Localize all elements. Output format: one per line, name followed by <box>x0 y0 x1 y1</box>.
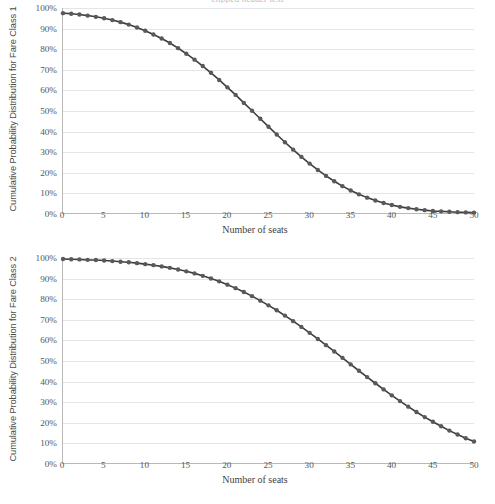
data-point-marker <box>209 276 213 280</box>
data-point-marker <box>283 313 287 317</box>
data-point-marker <box>332 179 336 183</box>
data-point-marker <box>168 266 172 270</box>
data-point-marker <box>414 410 418 414</box>
data-point-marker <box>373 381 377 385</box>
data-point-marker <box>94 258 98 262</box>
data-point-marker <box>102 258 106 262</box>
data-point-marker <box>250 294 254 298</box>
data-point-marker <box>184 269 188 273</box>
x-axis-title: Number of seats <box>30 474 480 485</box>
x-tick-label: 30 <box>305 460 314 470</box>
data-point-marker <box>168 41 172 45</box>
y-axis-title: Cumulative Probability Distribution for … <box>0 0 26 218</box>
x-tick-label: 5 <box>101 460 106 470</box>
x-tick-label: 0 <box>60 210 65 220</box>
x-tick-label: 45 <box>428 460 437 470</box>
data-point-marker <box>307 161 311 165</box>
data-point-marker <box>85 258 89 262</box>
series-line <box>63 259 474 441</box>
chart-fare-class-1: Cumulative Probability Distribution for … <box>0 0 495 250</box>
data-point-marker <box>209 71 213 75</box>
y-axis-title-label: Cumulative Probability Distribution for … <box>8 256 18 461</box>
y-tick-label: 100% <box>36 3 57 13</box>
series-line <box>63 13 474 212</box>
data-point-marker <box>266 303 270 307</box>
plot-wrapper: 0%10%20%30%40%50%60%70%80%90%100% <box>30 8 480 214</box>
data-series-fare-class-2 <box>63 258 474 463</box>
data-point-marker <box>275 132 279 136</box>
y-tick-label: 0% <box>45 209 57 219</box>
data-point-marker <box>390 203 394 207</box>
data-point-marker <box>406 404 410 408</box>
x-tick-label: 15 <box>181 460 190 470</box>
data-point-marker <box>201 64 205 68</box>
data-point-marker <box>316 337 320 341</box>
data-point-marker <box>398 399 402 403</box>
data-point-marker <box>324 174 328 178</box>
data-point-marker <box>225 85 229 89</box>
data-point-marker <box>258 117 262 121</box>
data-point-marker <box>307 331 311 335</box>
y-tick-label: 40% <box>40 127 57 137</box>
y-tick-label: 10% <box>40 188 57 198</box>
data-point-marker <box>233 286 237 290</box>
data-point-marker <box>176 267 180 271</box>
data-point-marker <box>151 263 155 267</box>
data-point-marker <box>94 15 98 19</box>
data-point-marker <box>275 308 279 312</box>
x-axis-tick-labels: 05101520253035404550 <box>62 458 474 474</box>
data-point-marker <box>110 18 114 22</box>
data-point-marker <box>250 109 254 113</box>
y-tick-label: 20% <box>40 418 57 428</box>
data-point-marker <box>233 93 237 97</box>
plot-wrapper: 0%10%20%30%40%50%60%70%80%90%100% <box>30 258 480 464</box>
y-tick-label: 60% <box>40 335 57 345</box>
data-point-marker <box>390 393 394 397</box>
data-point-marker <box>135 25 139 29</box>
data-point-marker <box>439 424 443 428</box>
data-point-marker <box>159 36 163 40</box>
x-tick-label: 10 <box>140 210 149 220</box>
x-tick-label: 15 <box>181 210 190 220</box>
y-tick-label: 30% <box>40 147 57 157</box>
x-axis-title: Number of seats <box>30 224 480 235</box>
data-point-marker <box>299 155 303 159</box>
x-tick-label: 40 <box>387 210 396 220</box>
data-point-marker <box>283 140 287 144</box>
data-point-marker <box>225 282 229 286</box>
data-point-marker <box>340 356 344 360</box>
data-point-marker <box>192 271 196 275</box>
data-point-marker <box>127 22 131 26</box>
data-point-marker <box>431 420 435 424</box>
data-point-marker <box>61 257 65 261</box>
x-axis-tick-labels: 05101520253035404550 <box>62 208 474 224</box>
x-tick-label: 40 <box>387 460 396 470</box>
data-point-marker <box>85 13 89 17</box>
y-tick-label: 50% <box>40 356 57 366</box>
x-tick-label: 10 <box>140 460 149 470</box>
data-point-marker <box>61 11 65 15</box>
y-tick-label: 10% <box>40 438 57 448</box>
y-tick-label: 50% <box>40 106 57 116</box>
data-point-marker <box>365 195 369 199</box>
x-tick-label: 20 <box>222 210 231 220</box>
data-point-marker <box>69 12 73 16</box>
data-point-marker <box>77 12 81 16</box>
x-tick-label: 35 <box>346 460 355 470</box>
x-tick-label: 45 <box>428 210 437 220</box>
y-tick-label: 100% <box>36 253 57 263</box>
data-point-marker <box>176 46 180 50</box>
data-point-marker <box>118 20 122 24</box>
x-tick-label: 20 <box>222 460 231 470</box>
data-point-marker <box>324 343 328 347</box>
x-tick-label: 50 <box>469 460 478 470</box>
data-point-marker <box>258 298 262 302</box>
y-tick-label: 0% <box>45 459 57 469</box>
data-point-marker <box>192 57 196 61</box>
data-point-marker <box>242 101 246 105</box>
x-tick-label: 35 <box>346 210 355 220</box>
y-tick-label: 40% <box>40 377 57 387</box>
data-point-marker <box>159 264 163 268</box>
y-axis-tick-labels: 0%10%20%30%40%50%60%70%80%90%100% <box>30 258 60 464</box>
y-tick-label: 30% <box>40 397 57 407</box>
